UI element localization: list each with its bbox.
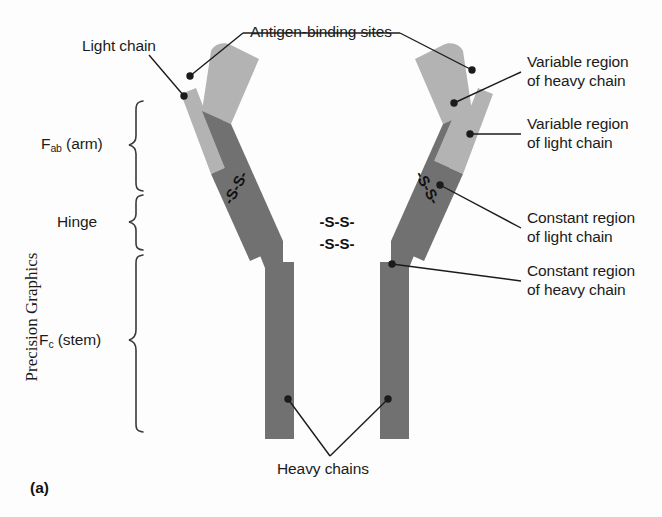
label-variable-region-heavy-chain-line2: of heavy chain — [527, 71, 626, 90]
label-fab-region: Fab (arm) — [41, 134, 103, 153]
label-hinge-region: Hinge — [57, 212, 97, 231]
left-heavy-chain-variable-region — [202, 43, 259, 124]
leader-dot-heavy-chains-left — [285, 396, 291, 402]
fc-suffix: (stem) — [54, 331, 102, 348]
fab-suffix: (arm) — [62, 135, 103, 152]
credit-line: Precision Graphics — [22, 222, 42, 412]
label-variable-region-light-chain-line1: Variable region — [527, 114, 629, 133]
right-heavy-chain-constant-region-stem — [380, 262, 409, 439]
label-variable-region-light-chain-line2: of light chain — [527, 133, 613, 152]
fab-symbol: F — [41, 135, 50, 152]
region-brackets — [129, 101, 143, 432]
leader-dot-antigen-right — [469, 67, 475, 73]
leader-heavy-chains-left — [288, 399, 330, 456]
label-fc-region: Fc (stem) — [39, 330, 101, 349]
fab-subscript: ab — [50, 142, 61, 154]
label-variable-region-heavy-chain-line1: Variable region — [527, 52, 629, 71]
disulfide-bond-stem-lower: -S-S- — [320, 235, 355, 252]
label-heavy-chains: Heavy chains — [277, 459, 369, 478]
leader-dot-variable-heavy — [451, 100, 457, 106]
label-light-chain: Light chain — [82, 36, 156, 55]
fab-bracket — [129, 101, 143, 191]
disulfide-bond-stem-upper: -S-S- — [320, 213, 355, 230]
leader-dot-variable-light — [467, 131, 473, 137]
leader-constant-heavy — [392, 264, 521, 281]
label-constant-region-light-chain-line1: Constant region — [527, 208, 635, 227]
leader-dot-constant-light — [437, 182, 443, 188]
leader-heavy-chains-right — [330, 399, 388, 456]
leader-dot-light-chain — [181, 93, 187, 99]
leader-dot-constant-heavy — [389, 261, 395, 267]
label-constant-region-heavy-chain-line2: of heavy chain — [527, 280, 626, 299]
leader-light-chain — [149, 55, 184, 96]
antibody-structure-figure: -S-S- -S-S- -S-S- -S-S- — [0, 0, 662, 517]
leader-dot-heavy-chains-right — [385, 396, 391, 402]
label-constant-region-heavy-chain-line1: Constant region — [527, 261, 635, 280]
label-antigen-binding-sites: Antigen-binding sites — [250, 22, 392, 41]
panel-letter: (a) — [30, 479, 49, 497]
left-heavy-chain-constant-region-stem — [265, 262, 294, 439]
leader-dot-antigen-left — [187, 73, 193, 79]
leader-constant-light — [440, 185, 521, 228]
label-constant-region-light-chain-line2: of light chain — [527, 227, 613, 246]
hinge-bracket — [129, 195, 143, 250]
fc-bracket — [129, 255, 143, 432]
